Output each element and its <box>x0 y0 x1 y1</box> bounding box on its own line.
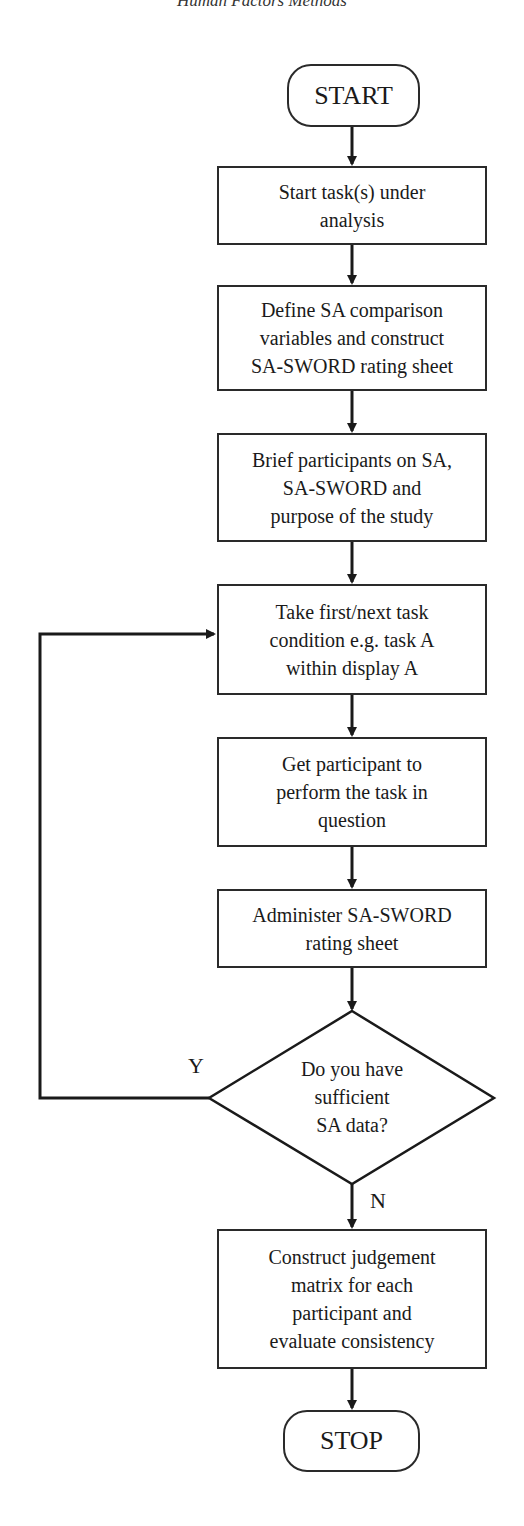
final-step-label: Construct judgement matrix for each part… <box>268 1243 435 1355</box>
start-label: START <box>314 81 393 111</box>
step-5-box: Get participant to perform the task in q… <box>217 737 487 847</box>
stop-terminal: STOP <box>283 1410 420 1472</box>
final-step-box: Construct judgement matrix for each part… <box>217 1229 487 1369</box>
decision-no-label: N <box>370 1188 386 1214</box>
step-5-label: Get participant to perform the task in q… <box>276 750 428 834</box>
step-3-label: Brief participants on SA, SA-SWORD and p… <box>252 446 452 530</box>
decision-label: Do you have sufficient SA data? <box>262 1055 442 1139</box>
step-1-label: Start task(s) under analysis <box>279 178 426 234</box>
step-2-label: Define SA comparison variables and const… <box>251 296 453 380</box>
decision-yes-label: Y <box>188 1053 204 1079</box>
step-3-box: Brief participants on SA, SA-SWORD and p… <box>217 433 487 542</box>
arrow-decision-yes-loop <box>40 634 214 1098</box>
step-4-label: Take first/next task condition e.g. task… <box>270 598 435 682</box>
step-6-box: Administer SA-SWORD rating sheet <box>217 889 487 968</box>
stop-label: STOP <box>320 1426 383 1456</box>
start-terminal: START <box>287 64 420 127</box>
step-4-box: Take first/next task condition e.g. task… <box>217 584 487 695</box>
step-6-label: Administer SA-SWORD rating sheet <box>252 901 451 957</box>
step-2-box: Define SA comparison variables and const… <box>217 285 487 391</box>
step-1-box: Start task(s) under analysis <box>217 166 487 245</box>
